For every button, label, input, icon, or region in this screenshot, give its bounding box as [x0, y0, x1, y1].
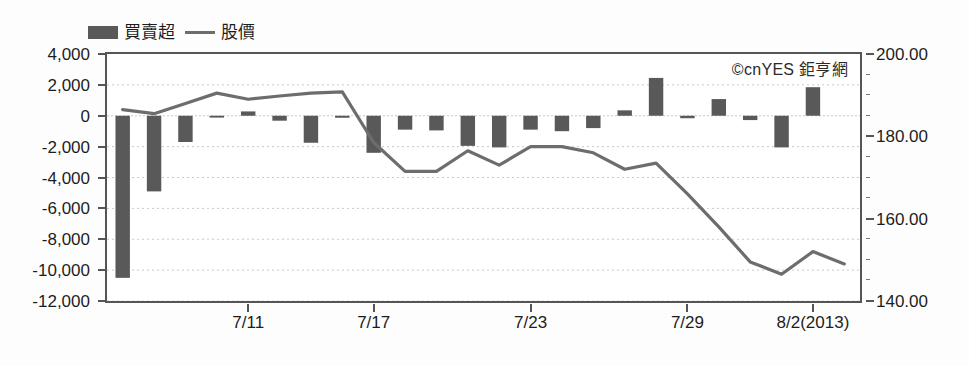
- y-left-tick-mark: [98, 115, 105, 117]
- bar: [461, 116, 475, 146]
- x-axis-tick-mark: [373, 304, 375, 312]
- plot-area: ©cnYES 鉅亨網: [105, 52, 862, 303]
- y-left-tick-label: 0: [81, 108, 90, 125]
- y-left-tick-mark: [98, 146, 105, 148]
- x-axis-tick-mark: [247, 304, 249, 312]
- bar: [617, 110, 631, 115]
- bar: [429, 116, 443, 131]
- watermark-text: ©cnYES 鉅亨網: [732, 62, 848, 78]
- y-right-minor-tick: [866, 197, 870, 198]
- x-axis-tick-mark: [686, 304, 688, 312]
- bar: [398, 116, 412, 130]
- bar: [241, 111, 255, 115]
- y-left-tick-label: -12,000: [32, 293, 90, 310]
- legend-item-bar: 買賣超: [88, 24, 175, 41]
- line-swatch-icon: [185, 31, 215, 34]
- chart-canvas: [107, 54, 860, 301]
- y-right-tick-label: 180.00: [876, 128, 928, 145]
- chart-legend: 買賣超 股價: [88, 20, 255, 44]
- legend-item-line: 股價: [185, 24, 255, 41]
- x-axis-tick-mark: [530, 304, 532, 312]
- y-left-tick-mark: [98, 177, 105, 179]
- y-right-minor-tick: [866, 74, 870, 75]
- bar: [178, 116, 192, 142]
- bar: [649, 78, 663, 116]
- bar: [806, 87, 820, 116]
- y-left-tick-label: -6,000: [42, 200, 90, 217]
- y-right-tick-label: 140.00: [876, 293, 928, 310]
- y-right-tick-mark: [866, 135, 874, 137]
- chart-root: 買賣超 股價 4,0002,0000-2,000-4,000-6,000-8,0…: [0, 0, 969, 366]
- bar: [712, 99, 726, 116]
- y-left-tick-label: 4,000: [47, 46, 90, 63]
- y-left-tick-mark: [98, 238, 105, 240]
- x-axis: 7/117/177/237/298/2(2013): [105, 306, 862, 336]
- y-left-tick-label: -8,000: [42, 231, 90, 248]
- x-axis-tick-label: 7/17: [357, 314, 390, 331]
- y-right-minor-tick: [866, 115, 870, 116]
- bar: [743, 116, 757, 120]
- y-right-tick-mark: [866, 300, 874, 302]
- bar: [304, 116, 318, 143]
- bar: [774, 116, 788, 148]
- y-right-minor-tick: [866, 259, 870, 260]
- y-left-tick-mark: [98, 53, 105, 55]
- x-axis-tick-label: 8/2(2013): [777, 314, 850, 331]
- bar: [147, 116, 161, 192]
- y-left-tick-mark: [98, 84, 105, 86]
- y-left-tick-mark: [98, 269, 105, 271]
- price-line: [123, 92, 845, 274]
- y-left-tick-label: 2,000: [47, 77, 90, 94]
- legend-label-bar: 買賣超: [124, 24, 175, 41]
- y-axis-left: 4,0002,0000-2,000-4,000-6,000-8,000-10,0…: [0, 52, 100, 303]
- y-left-tick-label: -2,000: [42, 139, 90, 156]
- bar: [492, 116, 506, 148]
- y-left-tick-label: -4,000: [42, 170, 90, 187]
- bar: [272, 116, 286, 121]
- legend-label-line: 股價: [221, 24, 255, 41]
- bar: [335, 116, 349, 118]
- x-axis-tick-mark: [812, 304, 814, 312]
- y-left-tick-label: -10,000: [32, 262, 90, 279]
- bar: [210, 116, 224, 118]
- y-right-tick-mark: [866, 218, 874, 220]
- bar: [523, 116, 537, 130]
- bar: [586, 116, 600, 128]
- x-axis-tick-label: 7/11: [232, 314, 264, 331]
- y-left-tick-mark: [98, 300, 105, 302]
- bar: [680, 116, 694, 118]
- bar: [115, 116, 129, 278]
- x-axis-tick-label: 7/23: [514, 314, 547, 331]
- bar-swatch-icon: [88, 26, 118, 39]
- y-right-minor-tick: [866, 94, 870, 95]
- y-right-tick-label: 160.00: [876, 211, 928, 228]
- bar: [555, 116, 569, 131]
- y-right-minor-tick: [866, 279, 870, 280]
- x-axis-tick-label: 7/29: [671, 314, 704, 331]
- y-right-minor-tick: [866, 156, 870, 157]
- y-right-tick-label: 200.00: [876, 46, 928, 63]
- y-right-minor-tick: [866, 177, 870, 178]
- y-left-tick-mark: [98, 207, 105, 209]
- y-right-minor-tick: [866, 238, 870, 239]
- y-right-tick-mark: [866, 53, 874, 55]
- y-axis-right: 200.00180.00160.00140.00: [866, 52, 969, 303]
